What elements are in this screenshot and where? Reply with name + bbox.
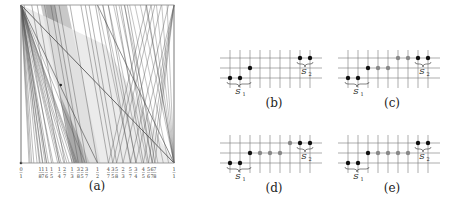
- x-tick-label: 27: [63, 166, 66, 179]
- lattice-point: [406, 56, 410, 60]
- lattice-point: [248, 151, 252, 155]
- x-tick-label: 15: [50, 166, 53, 179]
- lattice-point: [346, 76, 350, 80]
- x-tick-label: 13: [70, 166, 73, 179]
- lattice-point: [228, 161, 232, 165]
- svg-text:S: S: [301, 67, 307, 76]
- svg-text:S: S: [353, 87, 359, 96]
- svg-text:3: 3: [134, 166, 137, 172]
- x-tick-label: 35: [111, 166, 114, 179]
- lattice-point: [416, 141, 420, 145]
- svg-text:S: S: [235, 172, 241, 181]
- svg-text:2: 2: [81, 166, 84, 172]
- svg-text:1: 1: [243, 176, 246, 182]
- svg-text:4: 4: [142, 166, 145, 172]
- x-tick-label: 25: [81, 166, 84, 179]
- lattice-grid-c: S1S2: [336, 38, 446, 98]
- lattice-point: [258, 151, 262, 155]
- svg-text:S: S: [301, 152, 307, 161]
- svg-text:3: 3: [70, 173, 73, 179]
- svg-text:4: 4: [58, 173, 61, 179]
- farey-line-arrangement-plot: 0118171615142713382537124735582357344556…: [0, 0, 190, 206]
- lattice-point: [396, 151, 400, 155]
- svg-text:1: 1: [58, 166, 61, 172]
- lattice-point: [406, 151, 410, 155]
- x-tick-label: 37: [85, 166, 88, 179]
- lattice-point: [356, 76, 360, 80]
- x-tick-label: 47: [107, 166, 110, 179]
- lattice-point: [356, 161, 360, 165]
- caption-a: (a): [77, 179, 117, 193]
- svg-text:S: S: [419, 67, 425, 76]
- x-tick-label: 78: [153, 166, 156, 179]
- svg-text:3: 3: [77, 166, 80, 172]
- x-tick-label: 58: [115, 166, 118, 179]
- svg-text:7: 7: [153, 166, 156, 172]
- lattice-point: [426, 56, 430, 60]
- svg-text:8: 8: [77, 173, 80, 179]
- x-tick-label: 45: [142, 166, 145, 179]
- svg-text:5: 5: [115, 166, 118, 172]
- svg-text:1: 1: [361, 91, 364, 97]
- svg-text:2: 2: [427, 156, 430, 162]
- svg-text:8: 8: [115, 173, 118, 179]
- svg-text:1: 1: [361, 176, 364, 182]
- lattice-grid-e: S1S2: [336, 123, 446, 183]
- svg-text:3: 3: [111, 166, 114, 172]
- svg-text:4: 4: [107, 166, 110, 172]
- svg-text:4: 4: [134, 173, 137, 179]
- svg-text:3: 3: [121, 173, 124, 179]
- svg-text:S: S: [353, 172, 359, 181]
- svg-text:5: 5: [81, 173, 84, 179]
- lattice-point: [376, 66, 380, 70]
- lattice-point: [426, 141, 430, 145]
- lattice-point: [298, 56, 302, 60]
- x-tick-label: 57: [129, 166, 132, 179]
- lattice-point: [376, 151, 380, 155]
- svg-text:0: 0: [19, 166, 22, 172]
- svg-text:1: 1: [96, 166, 99, 172]
- x-tick-label: 34: [134, 166, 137, 179]
- x-tick-label: 11: [172, 166, 175, 179]
- x-tick-label: 14: [58, 166, 61, 179]
- lattice-point: [366, 66, 370, 70]
- lattice-point: [396, 56, 400, 60]
- lattice-point: [386, 151, 390, 155]
- lattice-point: [386, 66, 390, 70]
- svg-text:S: S: [419, 152, 425, 161]
- svg-text:1: 1: [243, 91, 246, 97]
- panel-d: S1S2 (d): [218, 123, 328, 201]
- svg-text:1: 1: [70, 166, 73, 172]
- lattice-grid-b: S1S2: [218, 38, 328, 98]
- panel-e: S1S2 (e): [336, 123, 446, 201]
- svg-text:2: 2: [121, 166, 124, 172]
- svg-text:1: 1: [50, 166, 53, 172]
- lattice-point: [298, 141, 302, 145]
- svg-text:2: 2: [309, 71, 312, 77]
- lattice-point: [308, 56, 312, 60]
- svg-text:7: 7: [107, 173, 110, 179]
- lattice-point: [288, 141, 292, 145]
- svg-text:7: 7: [85, 173, 88, 179]
- lattice-point: [416, 56, 420, 60]
- lattice-point: [248, 66, 252, 70]
- svg-text:S: S: [235, 87, 241, 96]
- caption-c: (c): [372, 96, 412, 110]
- lattice-point: [228, 76, 232, 80]
- lattice-grid-d: S1S2: [218, 123, 328, 183]
- panel-b: S1S2 (b): [218, 38, 328, 116]
- x-tick-label: 38: [77, 166, 80, 179]
- lattice-point: [238, 76, 242, 80]
- svg-text:7: 7: [63, 173, 66, 179]
- x-tick-label: 23: [121, 166, 124, 179]
- panel-c: S1S2 (c): [336, 38, 446, 116]
- svg-text:1: 1: [19, 173, 22, 179]
- x-tick-label: 12: [96, 166, 99, 179]
- lattice-point: [346, 161, 350, 165]
- svg-text:5: 5: [142, 173, 145, 179]
- caption-b: (b): [254, 96, 294, 110]
- svg-text:2: 2: [96, 173, 99, 179]
- svg-text:2: 2: [427, 71, 430, 77]
- lattice-point: [238, 161, 242, 165]
- lattice-point: [308, 141, 312, 145]
